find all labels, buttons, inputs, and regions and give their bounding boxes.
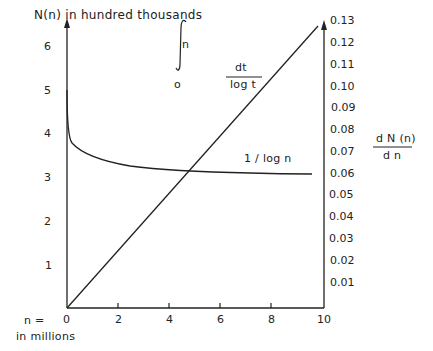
x-tick-2: 2 — [115, 313, 122, 326]
x-tick-10: 10 — [317, 313, 331, 326]
x-tick-0: 0 — [63, 313, 70, 326]
right-tick-0.09: 0.09 — [331, 101, 356, 114]
integral-denominator: log t — [230, 78, 256, 91]
left-tick-2: 2 — [44, 215, 51, 228]
x-tick-6: 6 — [217, 313, 224, 326]
right-axis-arrow-icon — [321, 20, 327, 30]
x-tick-4: 4 — [166, 313, 173, 326]
integral-upper-limit: n — [182, 38, 189, 51]
x-tick-8: 8 — [268, 313, 275, 326]
integral-numerator: dt — [235, 61, 247, 74]
x-ticks — [118, 303, 271, 308]
right-tick-0.01: 0.01 — [330, 276, 355, 289]
right-tick-0.03: 0.03 — [329, 232, 354, 245]
right-tick-0.11: 0.11 — [330, 58, 355, 71]
left-tick-5: 5 — [44, 84, 51, 97]
right-tick-0.06: 0.06 — [330, 167, 355, 180]
x-unit-label: in millions — [16, 330, 75, 343]
left-tick-4: 4 — [44, 127, 51, 140]
left-tick-3: 3 — [44, 171, 51, 184]
integral-line — [67, 26, 318, 308]
right-axis-denominator: d n — [383, 149, 401, 162]
right-tick-0.05: 0.05 — [329, 188, 354, 201]
integral-lower-limit: o — [174, 78, 181, 91]
right-tick-0.07: 0.07 — [330, 145, 355, 158]
curve-label: 1 / log n — [244, 152, 292, 165]
right-axis-numerator: d N (n) — [376, 132, 416, 145]
right-tick-0.02: 0.02 — [330, 254, 355, 267]
right-tick-0.12: 0.12 — [330, 36, 355, 49]
right-tick-0.08: 0.08 — [330, 123, 355, 136]
chart-canvas — [0, 0, 433, 351]
x-prefix-label: n = — [24, 314, 45, 327]
right-tick-0.04: 0.04 — [329, 210, 354, 223]
right-tick-0.13: 0.13 — [330, 14, 355, 27]
left-tick-1: 1 — [45, 259, 52, 272]
y-left-title: N(n) in hundred thousands — [34, 8, 202, 22]
right-tick-0.10: 0.10 — [330, 80, 355, 93]
left-tick-6: 6 — [44, 40, 51, 53]
